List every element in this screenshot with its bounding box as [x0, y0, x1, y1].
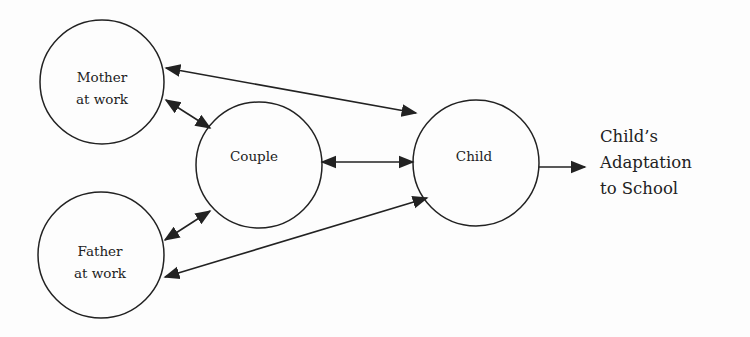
node-couple-label: Couple — [230, 148, 278, 164]
node-couple: Couple — [196, 102, 322, 228]
edges-layer — [165, 68, 585, 277]
diagram-canvas: Mother at work Father at work Couple Chi… — [0, 0, 750, 337]
node-couple-circle — [196, 102, 322, 228]
edge-father-child — [165, 198, 427, 277]
outcome-label-line1: Child’s — [600, 127, 658, 146]
diagram-svg: Mother at work Father at work Couple Chi… — [0, 0, 750, 337]
outcome-label-line3: to School — [600, 179, 678, 198]
node-father: Father at work — [38, 192, 164, 318]
node-mother-label-line1: Mother — [77, 69, 128, 85]
outcome-label: Child’s Adaptation to School — [599, 127, 692, 198]
node-child-label: Child — [456, 148, 493, 164]
edge-father-couple — [165, 211, 210, 240]
node-father-label-line2: at work — [74, 265, 127, 281]
edge-mother-couple — [166, 100, 210, 128]
edge-mother-child — [166, 68, 416, 113]
outcome-label-line2: Adaptation — [599, 153, 692, 172]
node-father-label-line1: Father — [77, 243, 123, 259]
node-child: Child — [413, 100, 539, 226]
node-mother-label-line2: at work — [76, 91, 129, 107]
node-mother: Mother at work — [40, 20, 164, 144]
